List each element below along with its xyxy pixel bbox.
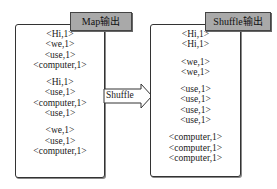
map-item: <we,1> (16, 39, 104, 49)
shuffle-item: <use,1> (151, 115, 240, 125)
map-item: <Hi,1> (16, 77, 104, 87)
shuffle-item: <computer,1> (151, 132, 240, 142)
shuffle-item: <use,1> (151, 94, 240, 104)
shuffle-item: <we,1> (151, 57, 240, 67)
shuffle-item: <use,1> (151, 105, 240, 115)
map-item: <use,1> (16, 87, 104, 97)
map-item: <use,1> (16, 136, 104, 146)
shuffle-item: <computer,1> (151, 153, 240, 163)
map-output-label: Map输出 (70, 12, 132, 31)
map-item: <use,1> (16, 108, 104, 118)
shuffle-item: <computer,1> (151, 143, 240, 153)
shuffle-output-list: <Hi,1> <Hi,1> <we,1> <we,1> <use,1> <use… (151, 29, 240, 163)
map-item: <we,1> (16, 125, 104, 135)
shuffle-item: <we,1> (151, 67, 240, 77)
shuffle-item: <use,1> (151, 84, 240, 94)
map-output-list: <Hi,1> <we,1> <use,1> <computer,1> <Hi,1… (16, 29, 104, 156)
shuffle-arrow-label: Shuffle (106, 89, 134, 101)
map-item: <computer,1> (16, 60, 104, 70)
map-item: <use,1> (16, 50, 104, 60)
map-item: <computer,1> (16, 98, 104, 108)
shuffle-item: <Hi,1> (151, 39, 240, 49)
shuffle-output-box: <Hi,1> <Hi,1> <we,1> <we,1> <use,1> <use… (150, 24, 241, 177)
shuffle-output-label: Shuffle输出 (205, 12, 271, 31)
map-output-box: <Hi,1> <we,1> <use,1> <computer,1> <Hi,1… (15, 24, 105, 178)
map-item: <computer,1> (16, 146, 104, 156)
